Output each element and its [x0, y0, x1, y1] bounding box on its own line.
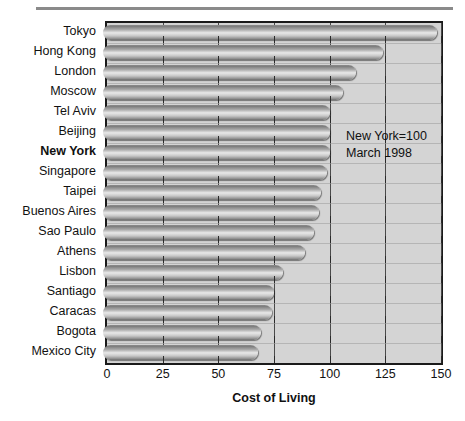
row-tick [274, 96, 275, 103]
row-tick [218, 216, 219, 223]
x-tick-label-100: 100 [319, 367, 340, 381]
row-tick [385, 176, 386, 183]
row-tick [218, 136, 219, 143]
row-tick [441, 196, 442, 203]
row-tick [385, 76, 386, 83]
bar-moscow [103, 85, 343, 100]
bar-beijing [103, 125, 330, 140]
category-label-buenos-aires: Buenos Aires [22, 201, 96, 221]
row-tick [385, 356, 386, 363]
category-label-singapore: Singapore [39, 161, 96, 181]
bar-taipei [103, 185, 321, 200]
x-tick-label-25: 25 [156, 367, 170, 381]
x-tick-label-75: 75 [267, 367, 281, 381]
row-tick [441, 36, 442, 43]
category-label-hong-kong: Hong Kong [33, 41, 96, 61]
row-tick [330, 196, 331, 203]
row-tick [441, 236, 442, 243]
row-tick [163, 236, 164, 243]
row-tick [330, 156, 331, 163]
row-tick [385, 336, 386, 343]
row-tick [218, 96, 219, 103]
row-tick [218, 256, 219, 263]
row-tick [330, 216, 331, 223]
row-tick [441, 176, 442, 183]
row-tick [385, 236, 386, 243]
row-tick [274, 156, 275, 163]
row-tick [385, 36, 386, 43]
row-tick [163, 196, 164, 203]
row-tick [441, 336, 442, 343]
row-tick [274, 276, 275, 283]
category-label-tel-aviv: Tel Aviv [54, 101, 96, 121]
x-axis: 0255075100125150 [0, 367, 465, 389]
row-tick [330, 56, 331, 63]
cost-of-living-bar-chart: TokyoHong KongLondonMoscowTel AvivBeijin… [0, 0, 465, 421]
row-tick [330, 176, 331, 183]
annotation-line-2: March 1998 [346, 145, 427, 162]
bar-new-york [103, 145, 330, 160]
category-label-beijing: Beijing [58, 121, 96, 141]
bar-lisbon [103, 265, 283, 280]
row-tick [163, 116, 164, 123]
bar-santiago [103, 285, 274, 300]
row-tick [441, 76, 442, 83]
row-tick [163, 296, 164, 303]
row-tick [218, 56, 219, 63]
row-tick [330, 236, 331, 243]
x-tick-label-125: 125 [375, 367, 396, 381]
row-tick [218, 196, 219, 203]
row-tick [274, 36, 275, 43]
row-tick [218, 336, 219, 343]
row-tick [330, 336, 331, 343]
row-tick [274, 296, 275, 303]
row-tick [163, 356, 164, 363]
category-label-athens: Athens [57, 241, 96, 261]
bar-caracas [103, 305, 272, 320]
row-tick [330, 36, 331, 43]
category-label-caracas: Caracas [49, 301, 96, 321]
row-tick [385, 196, 386, 203]
row-tick [274, 236, 275, 243]
row-tick [441, 256, 442, 263]
row-tick [163, 176, 164, 183]
bar-sao-paulo [103, 225, 314, 240]
row-tick [330, 96, 331, 103]
row-tick [330, 76, 331, 83]
row-tick [163, 76, 164, 83]
category-label-bogota: Bogota [56, 321, 96, 341]
row-tick [218, 356, 219, 363]
row-tick [385, 276, 386, 283]
row-tick [218, 76, 219, 83]
row-tick [330, 316, 331, 323]
row-tick [274, 56, 275, 63]
row-tick [218, 276, 219, 283]
row-tick [441, 156, 442, 163]
row-tick [385, 116, 386, 123]
row-tick [218, 236, 219, 243]
row-tick [441, 356, 442, 363]
row-tick [385, 296, 386, 303]
gridline-150 [441, 23, 442, 363]
plot-inner [107, 23, 441, 363]
row-tick [163, 96, 164, 103]
row-tick [163, 36, 164, 43]
row-tick [385, 256, 386, 263]
row-tick [330, 136, 331, 143]
row-tick [274, 116, 275, 123]
row-tick [274, 316, 275, 323]
row-tick [441, 96, 442, 103]
row-tick [385, 56, 386, 63]
row-tick [163, 276, 164, 283]
row-tick [441, 276, 442, 283]
row-tick [163, 56, 164, 63]
bar-mexico-city [103, 345, 258, 360]
row-tick [330, 356, 331, 363]
category-label-sao-paulo: Sao Paulo [38, 221, 96, 241]
row-tick [163, 156, 164, 163]
row-tick [163, 136, 164, 143]
bar-london [103, 65, 356, 80]
row-tick [274, 136, 275, 143]
row-tick [330, 256, 331, 263]
category-label-london: London [54, 61, 96, 81]
